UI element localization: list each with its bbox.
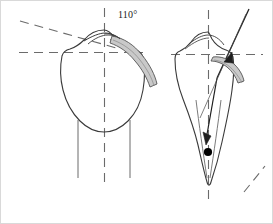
humerus-diagram-svg: [0, 0, 273, 224]
figure-container: 110°: [0, 0, 273, 224]
center-marker-dot-icon: [204, 148, 212, 156]
figure-border: [1, 1, 273, 224]
angle-label-110: 110°: [118, 10, 137, 20]
